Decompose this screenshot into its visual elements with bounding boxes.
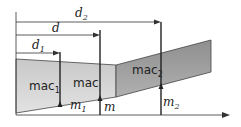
dimension-d-label: d	[52, 22, 60, 34]
panel-mac-label: mac	[73, 77, 99, 89]
point-m1-label: m1	[70, 99, 86, 111]
point-m-label: m	[104, 101, 115, 113]
dimension-d1-label: d1	[32, 39, 45, 51]
wing-diagram	[0, 0, 241, 127]
outer-wing-panel	[116, 40, 211, 97]
panel-mac1-label: mac1	[29, 80, 60, 92]
panel-mac2-label: mac2	[132, 64, 163, 76]
dimension-d2-label: d2	[75, 7, 88, 19]
point-m2-label: m2	[163, 96, 179, 108]
